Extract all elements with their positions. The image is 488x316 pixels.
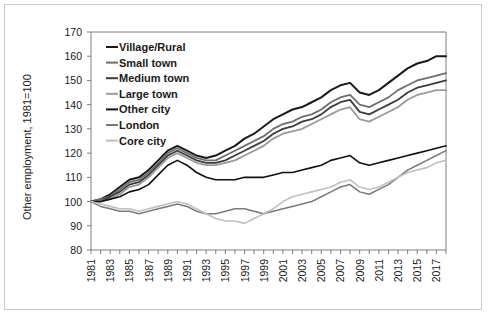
series-line-core-city — [91, 160, 446, 223]
x-tick-label: 1991 — [181, 259, 193, 283]
y-tick-label: 170 — [64, 26, 82, 38]
x-tick-label: 1989 — [162, 259, 174, 283]
x-tick-label: 1987 — [143, 259, 155, 283]
x-tick-label: 1999 — [258, 259, 270, 283]
x-axis-ticks — [91, 250, 446, 254]
x-tick-label: 2011 — [373, 259, 385, 282]
y-tick-label: 120 — [64, 147, 82, 159]
y-axis-title: Other employment, 1981=100 — [21, 74, 33, 220]
y-tick-label: 160 — [64, 50, 82, 62]
y-tick-label: 140 — [64, 99, 82, 111]
legend-label: Large town — [119, 88, 178, 100]
x-tick-label: 1993 — [200, 259, 212, 283]
x-tick-label: 2007 — [334, 259, 346, 283]
x-axis-tick-labels: 1981198319851987198919911993199519971999… — [85, 259, 442, 283]
legend-label: London — [119, 119, 160, 131]
line-chart: Other employment, 1981=100 8090100110120… — [5, 5, 483, 311]
x-tick-label: 2003 — [296, 259, 308, 283]
x-tick-label: 1985 — [123, 259, 135, 283]
x-tick-label: 1995 — [219, 259, 231, 283]
y-tick-label: 90 — [70, 220, 82, 232]
y-tick-label: 100 — [64, 196, 82, 208]
y-axis-tick-labels: 8090100110120130140150160170 — [64, 26, 82, 256]
x-tick-label: 2015 — [411, 259, 423, 283]
x-tick-label: 2005 — [315, 259, 327, 283]
chart-legend: Village/RuralSmall townMedium townLarge … — [106, 41, 190, 147]
x-tick-label: 2013 — [392, 259, 404, 283]
x-tick-label: 1997 — [239, 259, 251, 283]
x-tick-label: 2001 — [277, 259, 289, 283]
legend-label: Other city — [119, 103, 171, 115]
y-tick-label: 130 — [64, 123, 82, 135]
legend-label: Small town — [119, 57, 177, 69]
x-tick-label: 1983 — [104, 259, 116, 283]
y-tick-label: 110 — [65, 171, 82, 183]
y-axis-ticks — [87, 32, 91, 250]
y-tick-label: 80 — [70, 244, 82, 256]
x-tick-label: 2009 — [354, 259, 366, 283]
y-tick-label: 150 — [64, 74, 82, 86]
series-line-london — [91, 151, 446, 214]
legend-label: Village/Rural — [119, 41, 185, 53]
chart-frame: Other employment, 1981=100 8090100110120… — [4, 4, 482, 310]
y-axis-title-text: Other employment, 1981=100 — [21, 74, 33, 220]
x-tick-label: 1981 — [85, 259, 97, 283]
x-tick-label: 2017 — [430, 259, 442, 283]
legend-label: Medium town — [119, 72, 190, 84]
legend-label: Core city — [119, 135, 167, 147]
